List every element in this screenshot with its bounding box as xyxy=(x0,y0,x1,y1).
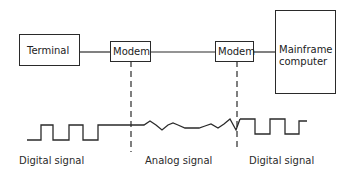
mainframe-box: Mainframe computer xyxy=(275,10,336,94)
digital-signal-left-label: Digital signal xyxy=(19,155,84,166)
digital-wave-left xyxy=(27,125,131,140)
digital-wave-right xyxy=(240,119,307,134)
modem-left-box: Modem xyxy=(110,41,151,62)
terminal-box: Terminal xyxy=(19,34,80,66)
analog-signal-label: Analog signal xyxy=(145,155,212,166)
modem-left-label: Modem xyxy=(113,46,150,57)
mainframe-label-line2: computer xyxy=(279,56,327,68)
analog-wave xyxy=(131,119,240,130)
modem-right-label: Modem xyxy=(218,46,255,57)
modem-right-box: Modem xyxy=(215,41,254,62)
digital-signal-right-label: Digital signal xyxy=(249,155,314,166)
mainframe-label-line1: Mainframe xyxy=(279,44,333,56)
terminal-label: Terminal xyxy=(27,45,69,56)
